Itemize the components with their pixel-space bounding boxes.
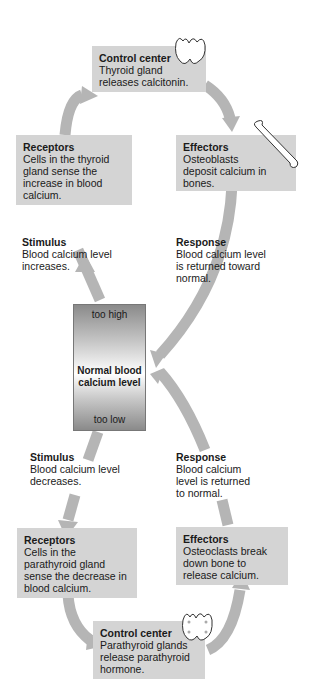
upper-stimulus-text: Blood calcium level increases.	[22, 248, 112, 272]
too-high-label: too high	[74, 309, 145, 321]
lower-response-title: Response	[176, 451, 256, 463]
upper-receptors-box: Receptors Cells in the thyroid gland sen…	[16, 135, 132, 205]
too-low-label: too low	[74, 414, 145, 426]
lower-stimulus-label: Stimulus Blood calcium level decreases.	[30, 451, 120, 487]
lower-receptors-box: Receptors Cells in the parathyroid gland…	[17, 528, 137, 598]
parathyroid-icon	[180, 608, 216, 644]
upper-receptors-title: Receptors	[23, 141, 125, 153]
upper-receptors-text: Cells in the thyroid gland sense the inc…	[23, 153, 125, 201]
upper-response-label: Response Blood calcium level is returned…	[176, 236, 266, 284]
lower-stimulus-title: Stimulus	[30, 451, 120, 463]
upper-stimulus-title: Stimulus	[22, 236, 112, 248]
lower-effectors-box: Effectors Osteoclasts break down bone to…	[176, 527, 288, 585]
lower-receptors-title: Receptors	[24, 534, 130, 546]
lower-stimulus-text: Blood calcium level decreases.	[30, 463, 120, 487]
thyroid-icon	[173, 33, 208, 69]
lower-effectors-text: Osteoclasts break down bone to release c…	[183, 545, 281, 581]
upper-response-text: Blood calcium level is returned toward n…	[176, 248, 266, 284]
lower-effectors-title: Effectors	[183, 533, 281, 545]
lower-response-label: Response Blood calcium level is returned…	[176, 451, 256, 499]
upper-response-title: Response	[176, 236, 266, 248]
normal-calcium-level-box: too high Normal blood calcium level too …	[73, 304, 146, 431]
lower-control-center-text: Parathyroid glands release parathyroid h…	[100, 639, 198, 675]
lower-response-text: Blood calcium level is returned to norma…	[176, 463, 256, 499]
upper-stimulus-label: Stimulus Blood calcium level increases.	[22, 236, 112, 272]
lower-receptors-text: Cells in the parathyroid gland sense the…	[24, 546, 130, 594]
normal-level-label: Normal blood calcium level	[74, 365, 145, 389]
bone-icon	[250, 117, 302, 171]
